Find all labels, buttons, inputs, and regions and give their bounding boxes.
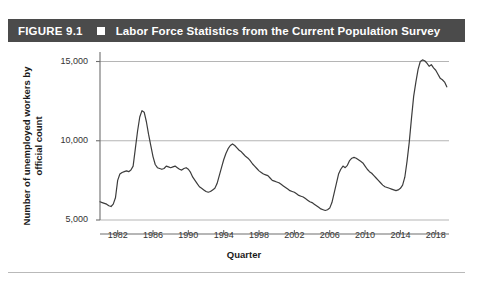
figure-container: FIGURE 9.1 Labor Force Statistics from t… bbox=[0, 0, 488, 285]
bottom-divider bbox=[8, 272, 465, 273]
x-tick-label: 2010 bbox=[345, 230, 385, 240]
x-tick-label: 2006 bbox=[310, 230, 350, 240]
gridlines-group bbox=[100, 62, 449, 220]
x-tick-label: 1994 bbox=[204, 230, 244, 240]
x-tick-label: 2014 bbox=[380, 230, 420, 240]
y-tick-label: 5,000 bbox=[42, 214, 88, 224]
x-axis-title: Quarter bbox=[0, 249, 488, 260]
figure-title: Labor Force Statistics from the Current … bbox=[116, 25, 441, 37]
figure-header-bar: FIGURE 9.1 Labor Force Statistics from t… bbox=[8, 19, 465, 42]
y-tick-label: 10,000 bbox=[42, 135, 88, 145]
axis-lines-group bbox=[100, 52, 449, 234]
x-tick-label: 1990 bbox=[168, 230, 208, 240]
x-tick-label: 2002 bbox=[274, 230, 314, 240]
x-tick-label: 1998 bbox=[239, 230, 279, 240]
data-line-unemployed bbox=[100, 60, 447, 211]
tick-marks-group bbox=[96, 62, 436, 234]
figure-number: FIGURE 9.1 bbox=[18, 25, 83, 37]
x-tick-label: 1986 bbox=[133, 230, 173, 240]
x-tick-label: 2018 bbox=[416, 230, 456, 240]
x-tick-label: 1982 bbox=[98, 230, 138, 240]
chart-area: Number of unemployed workers by official… bbox=[0, 42, 488, 272]
y-tick-label: 15,000 bbox=[42, 56, 88, 66]
filled-square-icon bbox=[97, 27, 105, 35]
